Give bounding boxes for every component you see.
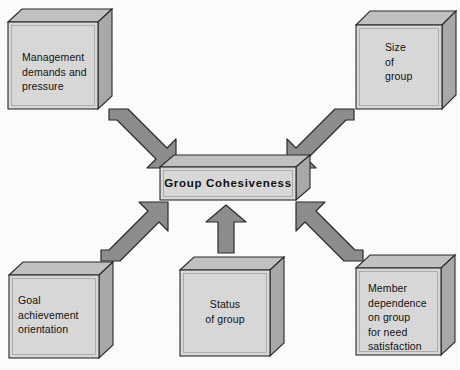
factor-label-goal-achievement-orientation: Goal achievement orientation [18, 293, 100, 337]
box-top-face [8, 9, 112, 22]
arrow-goal-to-center [101, 202, 168, 261]
factor-label-management-demands: Management demands and pressure [22, 50, 100, 94]
box-side-face [270, 257, 284, 356]
box-top-face [356, 11, 456, 25]
arrow-shape [109, 109, 176, 168]
box-side-face [98, 9, 112, 109]
box-side-face [99, 262, 113, 358]
factor-label-size-of-group: Size of group [385, 40, 445, 84]
center-box-label: Group Cohesiveness [160, 176, 296, 191]
diagram-canvas: Management demands and pressure Size of … [0, 0, 460, 370]
arrow-status-to-center [206, 205, 246, 253]
arrow-shape [101, 202, 168, 261]
box-top-face [356, 255, 455, 268]
box-top-face [180, 257, 284, 270]
factor-label-member-dependence: Member dependence on group for need sati… [368, 281, 444, 354]
arrow-shape [206, 205, 246, 253]
center-box-top-face [160, 155, 310, 167]
arrow-member-to-center [296, 202, 363, 261]
arrow-management-to-center [109, 109, 176, 168]
arrow-shape [296, 202, 363, 261]
box-top-face [9, 262, 113, 275]
factor-label-status-of-group: Status of group [183, 297, 267, 326]
